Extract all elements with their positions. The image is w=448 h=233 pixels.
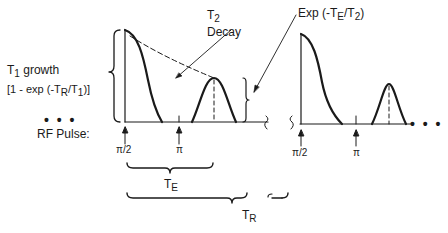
te-label: TE: [164, 178, 178, 193]
t1-formula-label: [1 - exp (-TR/T1)]: [7, 84, 90, 98]
exp-te-t2-label: Exp (-TE/T2): [298, 7, 364, 22]
pulse-180-label-2: π: [353, 148, 360, 158]
tr-label: TR: [242, 209, 257, 224]
pulse-90-label-1: π/2: [116, 145, 131, 155]
fid-1: [125, 30, 162, 122]
ellipsis-right: • • •: [410, 116, 442, 132]
te-brace: [127, 163, 213, 173]
pulse-180-label-1: π: [176, 145, 183, 155]
t1-growth-brace: [109, 30, 120, 122]
pulse-90-label-2: π/2: [292, 148, 307, 158]
t1-growth-label: T1 growth: [7, 64, 59, 79]
t2-decay-label: T2 Decay: [207, 9, 241, 38]
ellipsis-left: • • •: [44, 112, 76, 128]
tr-brace: [127, 193, 247, 203]
echo-amplitude-brace: [243, 78, 249, 122]
rf-pulse-label: RF Pulse:: [37, 128, 90, 140]
fid-2: [301, 34, 342, 124]
